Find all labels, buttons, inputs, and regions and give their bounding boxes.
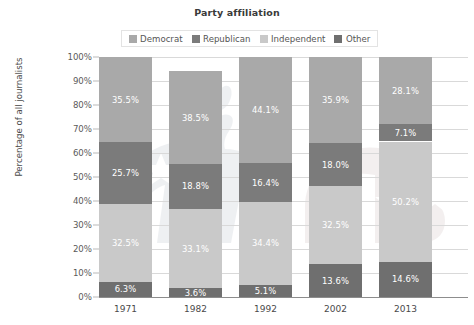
bar-segment-republican[interactable]: 18.8% <box>169 164 222 209</box>
bar-segment-value-label: 18.8% <box>182 181 209 191</box>
bar-segment-independent[interactable]: 50.2% <box>379 142 432 262</box>
y-tick-label: 80% <box>54 101 92 110</box>
bar-segment-democrat[interactable]: 35.9% <box>309 57 362 143</box>
bar-segment-independent[interactable]: 32.5% <box>99 204 152 282</box>
bar-segment-other[interactable]: 3.6% <box>169 288 222 297</box>
bar-segment-independent[interactable]: 34.4% <box>239 202 292 285</box>
bar-segment-democrat[interactable]: 35.5% <box>99 57 152 142</box>
bar-segment-value-label: 44.1% <box>252 105 279 115</box>
y-tick-label: 0% <box>54 293 92 302</box>
x-axis-label: 2013 <box>379 304 432 314</box>
bar-column[interactable]: 5.1%34.4%16.4%44.1% <box>239 57 292 297</box>
bar-segment-value-label: 35.5% <box>112 95 139 105</box>
bar-segment-value-label: 33.1% <box>182 244 209 254</box>
x-axis-label: 1971 <box>99 304 152 314</box>
bar-segment-value-label: 35.9% <box>322 95 349 105</box>
bar-segment-democrat[interactable]: 44.1% <box>239 57 292 163</box>
bar-segment-value-label: 38.5% <box>182 113 209 123</box>
bar-segment-value-label: 6.3% <box>115 284 137 294</box>
x-axis-label: 1992 <box>239 304 292 314</box>
bar-segment-value-label: 50.2% <box>392 197 419 207</box>
bar-column[interactable]: 6.3%32.5%25.7%35.5% <box>99 57 152 297</box>
bar-segment-value-label: 16.4% <box>252 178 279 188</box>
x-axis-label: 1982 <box>169 304 222 314</box>
bar-segment-value-label: 32.5% <box>322 220 349 230</box>
bar-segment-democrat[interactable]: 38.5% <box>169 71 222 163</box>
bar-segment-republican[interactable]: 25.7% <box>99 142 152 204</box>
bar-segment-value-label: 28.1% <box>392 86 419 96</box>
y-tick-label: 60% <box>54 149 92 158</box>
chart-plot-wrapper: Percentage of all journalists <box>0 0 474 325</box>
bar-segment-value-label: 18.0% <box>322 160 349 170</box>
bar-segment-other[interactable]: 5.1% <box>239 285 292 297</box>
bar-segment-independent[interactable]: 33.1% <box>169 209 222 288</box>
bar-column[interactable]: 3.6%33.1%18.8%38.5% <box>169 57 222 297</box>
plot-area: 0%10%20%30%40%50%60%70%80%90%100% 6.3%32… <box>99 57 468 297</box>
bar-segment-value-label: 25.7% <box>112 168 139 178</box>
bar-segment-value-label: 13.6% <box>322 276 349 286</box>
bar-segment-republican[interactable]: 7.1% <box>379 124 432 141</box>
bar-segment-independent[interactable]: 32.5% <box>309 186 362 264</box>
y-tick-label: 50% <box>54 173 92 182</box>
bar-segment-value-label: 7.1% <box>395 128 417 138</box>
bar-segment-republican[interactable]: 18.0% <box>309 143 362 186</box>
y-tick-label: 10% <box>54 269 92 278</box>
bar-segment-value-label: 14.6% <box>392 274 419 284</box>
y-tick-label: 40% <box>54 197 92 206</box>
gridline-0 <box>99 297 468 298</box>
y-tick-label: 20% <box>54 245 92 254</box>
bar-segment-value-label: 5.1% <box>255 286 277 296</box>
bar-segment-value-label: 32.5% <box>112 238 139 248</box>
bar-segment-other[interactable]: 13.6% <box>309 264 362 297</box>
bar-segment-value-label: 34.4% <box>252 238 279 248</box>
y-axis-title: Percentage of all journalists <box>14 37 24 197</box>
bar-column[interactable]: 13.6%32.5%18.0%35.9% <box>309 57 362 297</box>
bar-segment-value-label: 3.6% <box>185 288 207 298</box>
bar-column[interactable]: 14.6%50.2%7.1%28.1% <box>379 57 432 297</box>
y-tick-label: 90% <box>54 77 92 86</box>
bar-segment-republican[interactable]: 16.4% <box>239 163 292 202</box>
y-tick-label: 100% <box>54 53 92 62</box>
bar-segment-other[interactable]: 6.3% <box>99 282 152 297</box>
bar-segment-other[interactable]: 14.6% <box>379 262 432 297</box>
x-axis-label: 2002 <box>309 304 362 314</box>
bar-segment-democrat[interactable]: 28.1% <box>379 57 432 124</box>
y-tick-label: 30% <box>54 221 92 230</box>
y-tick-label: 70% <box>54 125 92 134</box>
